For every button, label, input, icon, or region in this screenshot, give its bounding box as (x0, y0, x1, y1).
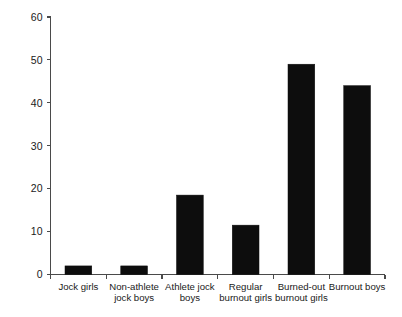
category-label: Non-athletejock boys (109, 281, 159, 304)
bar-chart: 0102030405060 Jock girlsNon-athletejock … (0, 0, 402, 317)
bar (232, 225, 259, 274)
y-tick-label: 50 (31, 54, 43, 66)
category-label: Burned-outburnout girls (275, 281, 328, 304)
category-label: Burnout boys (329, 281, 386, 292)
y-tick-label: 0 (37, 268, 43, 280)
y-tick-label: 30 (31, 140, 43, 152)
y-tick-label: 20 (31, 182, 43, 194)
y-tick-label: 60 (31, 11, 43, 23)
bar (288, 64, 315, 274)
y-tick-label: 40 (31, 97, 43, 109)
chart-page: 0102030405060 Jock girlsNon-athletejock … (0, 0, 402, 317)
category-label: Jock girls (58, 281, 98, 292)
bar (121, 266, 148, 275)
bar (65, 266, 92, 275)
bar (344, 86, 371, 275)
y-tick-label: 10 (31, 225, 43, 237)
bar (177, 195, 204, 274)
